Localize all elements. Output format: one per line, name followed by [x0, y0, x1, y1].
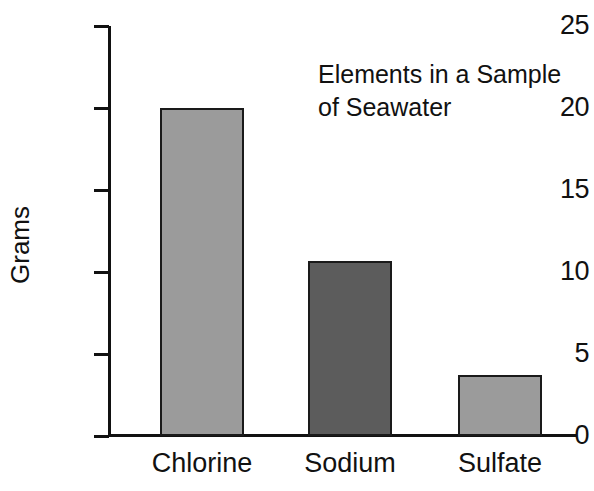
bar-sodium [308, 261, 392, 436]
y-axis-title: Grams [7, 180, 33, 310]
bar-sulfate [458, 375, 542, 436]
bar-chlorine [160, 108, 244, 436]
y-axis-tick [94, 353, 109, 356]
plot-area [111, 26, 577, 436]
x-axis-label-sulfate: Sulfate [400, 448, 594, 478]
y-axis-tick [94, 107, 109, 110]
y-axis-tick [94, 189, 109, 192]
y-axis-tick [94, 25, 109, 28]
y-axis-tick [94, 271, 109, 274]
y-axis-tick [94, 435, 109, 438]
